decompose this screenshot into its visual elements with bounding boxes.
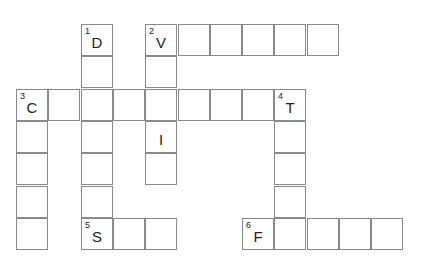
- crossword-cell[interactable]: [16, 186, 48, 218]
- crossword-cell[interactable]: [339, 218, 371, 250]
- crossword-cell[interactable]: [274, 186, 306, 218]
- crossword-cell[interactable]: [178, 89, 210, 121]
- cell-letter: S: [82, 228, 112, 246]
- crossword-cell[interactable]: [16, 218, 48, 250]
- cell-letter: I: [146, 131, 176, 149]
- crossword-cell[interactable]: [242, 89, 274, 121]
- crossword-cell[interactable]: [113, 218, 145, 250]
- crossword-cell[interactable]: 4T: [274, 89, 306, 121]
- crossword-cell[interactable]: [371, 218, 403, 250]
- crossword-cell[interactable]: [178, 24, 210, 56]
- crossword-cell[interactable]: [81, 186, 113, 218]
- crossword-cell[interactable]: 1D: [81, 24, 113, 56]
- crossword-cell[interactable]: [274, 218, 306, 250]
- cell-letter: C: [17, 99, 47, 117]
- crossword-cell[interactable]: [274, 24, 306, 56]
- cell-letter: V: [146, 34, 176, 52]
- crossword-cell[interactable]: [113, 89, 145, 121]
- crossword-cell[interactable]: [210, 24, 242, 56]
- crossword-cell[interactable]: [145, 56, 177, 88]
- crossword-cell[interactable]: [274, 153, 306, 185]
- crossword-cell[interactable]: 2V: [145, 24, 177, 56]
- crossword-cell[interactable]: [274, 121, 306, 153]
- crossword-cell[interactable]: [81, 121, 113, 153]
- crossword-cell[interactable]: [210, 89, 242, 121]
- crossword-cell[interactable]: [48, 89, 80, 121]
- crossword-cell[interactable]: 5S: [81, 218, 113, 250]
- crossword-cell[interactable]: [81, 153, 113, 185]
- crossword-cell[interactable]: [145, 218, 177, 250]
- crossword-cell[interactable]: [81, 56, 113, 88]
- cell-letter: D: [82, 34, 112, 52]
- crossword-cell[interactable]: 3C: [16, 89, 48, 121]
- crossword-grid: 1D5S2VI3C4T6F: [0, 0, 427, 267]
- crossword-cell[interactable]: [16, 121, 48, 153]
- crossword-cell[interactable]: [145, 89, 177, 121]
- cell-letter: T: [275, 99, 305, 117]
- crossword-cell[interactable]: [16, 153, 48, 185]
- crossword-cell[interactable]: [307, 24, 339, 56]
- crossword-cell[interactable]: I: [145, 121, 177, 153]
- crossword-cell[interactable]: [242, 24, 274, 56]
- crossword-cell[interactable]: [81, 89, 113, 121]
- cell-letter: F: [243, 228, 273, 246]
- crossword-cell[interactable]: 6F: [242, 218, 274, 250]
- crossword-cell[interactable]: [145, 153, 177, 185]
- crossword-cell[interactable]: [307, 218, 339, 250]
